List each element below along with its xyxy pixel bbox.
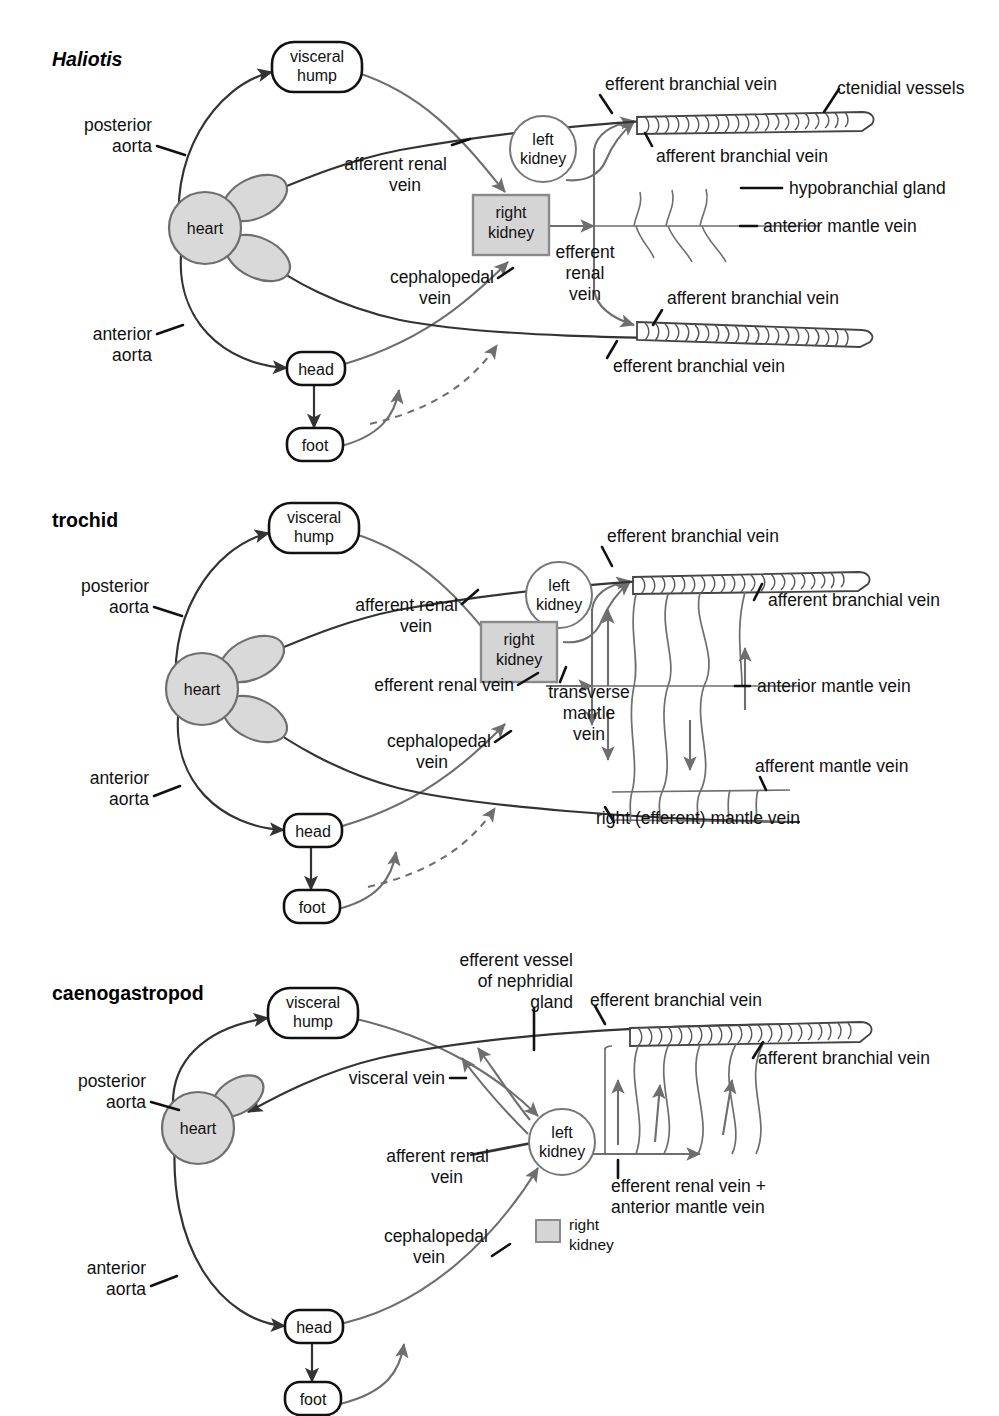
panel-haliotis: Haliotis visceral hump heart head foot l… [0,0,999,470]
label-cephalopedal-vein-1: cephalopedal [387,731,491,751]
label-hypobranchial-gland: hypobranchial gland [789,178,946,198]
label-efferent-branchial-vein-top: efferent branchial vein [605,74,777,94]
node-label-left-kidney-1: left [551,1124,573,1141]
label-anterior-aorta-1: anterior [93,324,153,344]
label-afferent-branchial-vein-bottom: afferent branchial vein [667,288,839,308]
node-label-visceral-hump-1: visceral [287,509,341,526]
node-label-visceral-hump-2: hump [293,1013,333,1030]
node-label-foot: foot [299,899,326,916]
node-label-foot: foot [300,1391,327,1408]
node-label-foot: foot [302,437,329,454]
label-posterior-aorta-1: posterior [84,115,152,135]
panel-title: Haliotis [52,48,123,70]
node-label-heart: heart [187,220,224,237]
node-label-left-kidney-1: left [548,577,570,594]
label-afferent-mantle-vein: afferent mantle vein [755,756,908,776]
label-cephalopedal-vein-1: cephalopedal [390,267,494,287]
node-left-kidney [526,562,592,628]
label-efferent-renal-vein-3: vein [569,284,601,304]
label-efferent-renal-vein-1: efferent [555,242,614,262]
label-anterior-aorta-2: aorta [109,789,149,809]
label-ctenidial-vessels: ctenidial vessels [837,78,965,98]
node-label-right-kidney-2: kidney [496,651,542,668]
label-afferent-renal-vein-1: afferent renal [344,154,447,174]
label-posterior-aorta-2: aorta [109,597,149,617]
label-efferent-vessel-nephridial-1: efferent vessel [460,950,574,970]
label-visceral-vein: visceral vein [349,1068,445,1088]
node-label-head: head [296,1319,332,1336]
label-cephalopedal-vein-2: vein [416,752,448,772]
label-posterior-aorta-2: aorta [112,136,152,156]
label-efferent-vessel-nephridial-2: of nephridial [478,971,573,991]
node-label-heart: heart [180,1120,217,1137]
node-label-heart: heart [184,681,221,698]
label-transverse-mantle-vein-1: transverse [548,682,630,702]
label-transverse-mantle-vein-3: vein [573,724,605,744]
label-afferent-renal-vein-2: vein [400,616,432,636]
label-posterior-aorta-1: posterior [78,1071,146,1091]
label-cephalopedal-vein-2: vein [413,1247,445,1267]
label-anterior-aorta-2: aorta [112,345,152,365]
label-afferent-renal-vein-1: afferent renal [386,1146,489,1166]
label-cephalopedal-vein-1: cephalopedal [384,1226,488,1246]
right-kidney-legend-label-1: right [569,1216,600,1233]
label-anterior-aorta-1: anterior [87,1258,147,1278]
node-label-left-kidney-2: kidney [539,1143,585,1160]
node-label-left-kidney-2: kidney [536,596,582,613]
label-efferent-renal-anterior-mantle-1: efferent renal vein + [611,1176,766,1196]
label-afferent-branchial-vein: afferent branchial vein [758,1048,930,1068]
label-efferent-branchial-vein: efferent branchial vein [590,990,762,1010]
label-cephalopedal-vein-2: vein [419,288,451,308]
label-efferent-renal-vein-2: renal [566,263,605,283]
label-anterior-aorta-2: aorta [106,1279,146,1299]
node-label-left-kidney-1: left [532,131,554,148]
label-anterior-aorta-1: anterior [90,768,150,788]
label-efferent-branchial-vein-bottom: efferent branchial vein [613,356,785,376]
node-label-visceral-hump-1: visceral [286,994,340,1011]
label-posterior-aorta-1: posterior [81,576,149,596]
label-efferent-renal-anterior-mantle-2: anterior mantle vein [611,1197,765,1217]
label-right-efferent-mantle-vein: right (efferent) mantle vein [596,808,800,828]
node-label-visceral-hump-2: hump [294,528,334,545]
label-anterior-mantle-vein: anterior mantle vein [763,216,917,236]
node-label-visceral-hump-1: visceral [290,48,344,65]
label-afferent-branchial-vein-top: afferent branchial vein [656,146,828,166]
panel-caenogastropod: caenogastropod visceral hump heart head … [0,930,999,1416]
node-label-head: head [298,361,334,378]
node-label-head: head [295,823,331,840]
panel-title: caenogastropod [52,982,204,1004]
panel-title: trochid [52,509,118,531]
label-afferent-renal-vein-2: vein [389,175,421,195]
label-posterior-aorta-2: aorta [106,1092,146,1112]
node-label-visceral-hump-2: hump [297,67,337,84]
node-label-right-kidney-2: kidney [488,224,534,241]
label-efferent-branchial-vein: efferent branchial vein [607,526,779,546]
right-kidney-legend-swatch [536,1220,560,1242]
panel-trochid: trochid visceral hump heart head foot le… [0,470,999,930]
heart-shape [162,1067,271,1164]
right-kidney-legend-label-2: kidney [569,1236,614,1253]
label-transverse-mantle-vein-2: mantle [563,703,616,723]
node-label-left-kidney-2: kidney [520,150,566,167]
label-afferent-renal-vein-1: afferent renal [355,595,458,615]
label-afferent-renal-vein-2: vein [431,1167,463,1187]
node-left-kidney [529,1109,595,1175]
label-anterior-mantle-vein: anterior mantle vein [757,676,911,696]
label-afferent-branchial-vein: afferent branchial vein [768,590,940,610]
node-label-right-kidney-1: right [495,204,527,221]
node-left-kidney [510,116,576,182]
node-label-right-kidney-1: right [503,631,535,648]
label-efferent-vessel-nephridial-3: gland [530,992,573,1012]
label-efferent-renal-vein: efferent renal vein [374,675,514,695]
